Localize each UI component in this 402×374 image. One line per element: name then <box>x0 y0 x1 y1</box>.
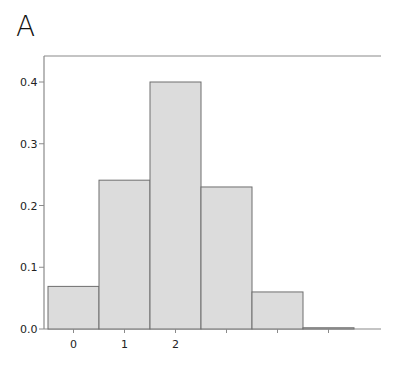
y-axis: 0.00.10.20.30.4 <box>20 76 44 336</box>
histogram-bar <box>48 286 99 329</box>
histogram-bar <box>303 328 354 329</box>
histogram-bar <box>150 82 201 329</box>
y-tick-label: 0.0 <box>20 323 38 336</box>
y-tick-label: 0.1 <box>20 261 38 274</box>
y-tick-label: 0.2 <box>20 200 38 213</box>
histogram-bar <box>252 292 303 329</box>
bars <box>48 82 354 329</box>
x-axis: 012 <box>70 329 329 351</box>
y-tick-label: 0.3 <box>20 138 38 151</box>
histogram-bar <box>201 187 252 329</box>
histogram-chart: 0.00.10.20.30.4 012 <box>0 0 402 374</box>
y-tick-label: 0.4 <box>20 76 38 89</box>
x-tick-label: 2 <box>172 338 179 351</box>
histogram-bar <box>99 180 150 329</box>
x-tick-label: 0 <box>70 338 77 351</box>
x-tick-label: 1 <box>121 338 128 351</box>
